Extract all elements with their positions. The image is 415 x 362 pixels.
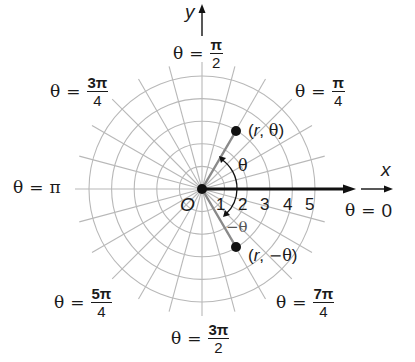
y-axis-arrow xyxy=(199,4,206,36)
y-axis-label: y xyxy=(185,2,195,21)
tick-3: 3 xyxy=(260,195,269,215)
point-label-r-neg-theta: (r, −θ) xyxy=(248,246,298,266)
label-theta-pi: θ=π xyxy=(13,179,61,196)
polar-diagram: y x O 1 2 3 4 5 θ −θ (r, θ) (r, −θ) θ= π… xyxy=(0,0,415,362)
grid-ray xyxy=(139,79,203,189)
x-axis-label: x xyxy=(381,160,391,179)
origin-dot xyxy=(197,184,207,194)
grid-ray xyxy=(112,99,202,189)
point-label-r-theta: (r, θ) xyxy=(248,121,284,141)
tick-4: 4 xyxy=(283,195,292,215)
point-r-theta xyxy=(231,126,241,136)
x-axis-arrow xyxy=(361,186,393,193)
label-theta-7pi-over-4: θ= 7π4 xyxy=(276,286,334,319)
tick-1: 1 xyxy=(216,195,225,215)
arc-label-neg-theta: −θ xyxy=(226,220,248,235)
origin-label: O xyxy=(180,195,195,214)
grid-ray xyxy=(92,126,202,190)
polar-axis xyxy=(202,185,356,194)
label-theta-5pi-over-4: θ= 5π4 xyxy=(54,286,112,319)
tick-5: 5 xyxy=(305,195,314,215)
label-theta-pi-over-2: θ= π2 xyxy=(173,37,223,70)
arc-label-theta: θ xyxy=(238,158,248,174)
tick-2: 2 xyxy=(238,195,247,215)
point-r-neg-theta xyxy=(231,242,241,252)
angle-arc-neg-theta xyxy=(226,189,237,214)
label-theta-pi-over-4: θ= π4 xyxy=(295,75,345,108)
label-theta-3pi-over-4: θ= 3π4 xyxy=(50,75,108,108)
grid-ray xyxy=(202,99,292,189)
label-theta-3pi-over-2: θ= 3π2 xyxy=(171,322,229,355)
label-theta-zero: θ=0 xyxy=(345,201,392,220)
